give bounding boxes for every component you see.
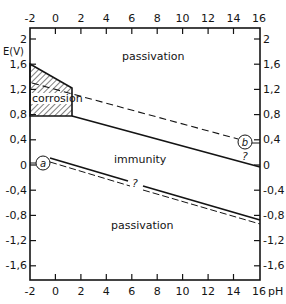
passivation-bottom-label: passivation (111, 219, 174, 232)
y-axis-title: E(V) (3, 46, 24, 57)
left-tick-label: -0,4 (6, 184, 27, 197)
x-axis-title: pH (268, 285, 283, 298)
bottom-tick-label: 2 (77, 285, 84, 298)
bottom-tick-label: 8 (154, 285, 161, 298)
top-tick-label: 8 (154, 12, 161, 25)
right-tick-label: -1,6 (263, 259, 284, 272)
left-tick-labels: 2 1,6 1,2 0,8 0,4 0 -0,4 -0,8 -1,2 -1,6 (6, 33, 27, 272)
passivation-top-label: passivation (122, 50, 185, 63)
immunity-label: immunity (114, 153, 167, 166)
top-tick-label: 6 (128, 12, 135, 25)
right-tick-label: 0,4 (263, 133, 281, 146)
top-tick-label: 12 (201, 12, 215, 25)
right-tick-label: 0,8 (263, 108, 281, 121)
bottom-tick-label: 4 (103, 285, 110, 298)
top-tick-label: 16 (252, 12, 266, 25)
line-a-label: a (40, 158, 46, 169)
corrosion-region (30, 64, 72, 116)
pourbaix-diagram: -2 0 2 4 6 8 10 12 14 16 -2 0 2 4 6 8 10… (0, 0, 286, 304)
left-tick-label: 0 (20, 159, 27, 172)
bottom-tick-label: 6 (128, 285, 135, 298)
right-ticks (254, 39, 260, 266)
top-ticks (55, 28, 233, 34)
left-tick-label: -0,8 (6, 209, 27, 222)
bottom-ticks (55, 274, 233, 280)
bottom-tick-label: 12 (201, 285, 215, 298)
top-tick-label: 14 (227, 12, 241, 25)
corrosion-label: corrosion (32, 92, 83, 105)
right-tick-label: -1,2 (263, 234, 284, 247)
right-tick-label: -0,8 (263, 209, 284, 222)
left-tick-label: 0,8 (10, 108, 28, 121)
right-tick-label: 1,2 (263, 83, 281, 96)
top-tick-labels: -2 0 2 4 6 8 10 12 14 16 (25, 12, 266, 25)
line-b-label: b (242, 137, 248, 148)
bottom-tick-label: 10 (176, 285, 190, 298)
left-tick-label: 1,6 (10, 58, 28, 71)
left-tick-label: 0,4 (10, 133, 28, 146)
question-mark-mid: ? (132, 177, 138, 190)
top-tick-label: -2 (25, 12, 36, 25)
right-tick-label: 1,6 (263, 58, 281, 71)
question-mark-right: ? (242, 150, 248, 163)
bottom-tick-label: 16 (252, 285, 266, 298)
immunity-passivation-lower-boundary-2 (143, 186, 260, 220)
top-tick-label: 0 (52, 12, 59, 25)
bottom-tick-label: 0 (52, 285, 59, 298)
left-tick-label: 2 (20, 33, 27, 46)
top-tick-label: 4 (103, 12, 110, 25)
left-tick-label: -1,6 (6, 259, 27, 272)
top-tick-label: 2 (77, 12, 84, 25)
right-tick-label: -0,4 (263, 184, 284, 197)
top-tick-label: 10 (176, 12, 190, 25)
left-tick-label: 1,2 (10, 83, 28, 96)
right-tick-labels: 2 1,6 1,2 0,8 0,4 0 -0,4 -0,8 -1,2 -1,6 (263, 33, 284, 272)
bottom-tick-labels: -2 0 2 4 6 8 10 12 14 16 (25, 285, 266, 298)
bottom-tick-label: 14 (227, 285, 241, 298)
right-tick-label: 0 (263, 159, 270, 172)
bottom-tick-label: -2 (25, 285, 36, 298)
left-tick-label: -1,2 (6, 234, 27, 247)
right-tick-label: 2 (263, 33, 270, 46)
